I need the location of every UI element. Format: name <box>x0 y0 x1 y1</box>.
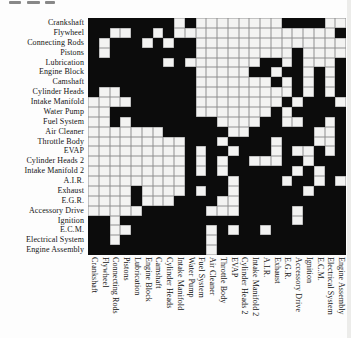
row-label: Flywheel <box>0 28 86 38</box>
matrix-cell <box>325 28 336 38</box>
matrix-cell <box>217 87 228 97</box>
col-label: Intake Manifold <box>174 257 185 337</box>
matrix-cell <box>163 137 174 147</box>
matrix-cell <box>335 77 346 87</box>
matrix-cell <box>292 48 303 58</box>
matrix-cell <box>88 127 99 137</box>
matrix-cell <box>239 225 250 235</box>
matrix-cell <box>142 58 153 68</box>
matrix-cell <box>131 18 142 28</box>
matrix-cell <box>153 67 164 77</box>
matrix-cell <box>292 127 303 137</box>
dsm-figure: CrankshaftFlywheelConnecting RodsPistons… <box>0 0 351 338</box>
matrix-cell <box>314 186 325 196</box>
matrix-cell <box>282 196 293 206</box>
matrix-cell <box>185 176 196 186</box>
matrix-cell <box>303 28 314 38</box>
matrix-cell <box>99 156 110 166</box>
matrix-cell <box>239 156 250 166</box>
matrix-cell <box>185 166 196 176</box>
matrix-cell <box>120 206 131 216</box>
col-label: Ignition <box>303 257 314 337</box>
matrix-cell <box>260 146 271 156</box>
matrix-cell <box>239 67 250 77</box>
matrix-cell <box>153 107 164 117</box>
matrix-cell <box>88 87 99 97</box>
row-label: Crankshaft <box>0 18 86 28</box>
matrix-cell <box>174 216 185 226</box>
matrix-cell <box>303 206 314 216</box>
matrix-cell <box>325 146 336 156</box>
matrix-cell <box>260 206 271 216</box>
matrix-cell <box>239 107 250 117</box>
matrix-cell <box>174 97 185 107</box>
matrix-cell <box>217 166 228 176</box>
matrix-cell <box>88 18 99 28</box>
matrix-cell <box>282 206 293 216</box>
matrix-cell <box>120 127 131 137</box>
matrix-cell <box>335 18 346 28</box>
matrix-cell <box>260 225 271 235</box>
matrix-cell <box>110 117 121 127</box>
matrix-cell <box>174 87 185 97</box>
matrix-cell <box>303 58 314 68</box>
col-label: Exhaust <box>271 257 282 337</box>
col-label: Pistons <box>120 257 131 337</box>
matrix-cell <box>196 206 207 216</box>
matrix-cell <box>99 146 110 156</box>
matrix-cell <box>131 28 142 38</box>
matrix-cell <box>185 58 196 68</box>
matrix-cell <box>185 28 196 38</box>
matrix-cell <box>249 107 260 117</box>
matrix-cell <box>228 146 239 156</box>
matrix-cell <box>249 225 260 235</box>
matrix-cell <box>110 156 121 166</box>
matrix-cell <box>88 235 99 245</box>
matrix-cell <box>217 38 228 48</box>
matrix-cell <box>292 196 303 206</box>
matrix-cell <box>142 206 153 216</box>
matrix-cell <box>185 137 196 147</box>
matrix-cell <box>120 216 131 226</box>
scan-edge-band <box>347 0 351 338</box>
matrix-cell <box>142 196 153 206</box>
col-label: Fuel System <box>196 257 207 337</box>
matrix-cell <box>303 186 314 196</box>
matrix-cell <box>88 196 99 206</box>
matrix-cell <box>217 48 228 58</box>
matrix-cell <box>174 38 185 48</box>
matrix-cell <box>174 156 185 166</box>
row-label: E.G.R. <box>0 196 86 206</box>
matrix-cell <box>314 58 325 68</box>
matrix-cell <box>335 196 346 206</box>
matrix-cell <box>185 77 196 87</box>
matrix-cell <box>174 137 185 147</box>
matrix-cell <box>99 216 110 226</box>
row-label-column: CrankshaftFlywheelConnecting RodsPistons… <box>0 18 86 255</box>
matrix-cell <box>228 107 239 117</box>
matrix-cell <box>120 225 131 235</box>
matrix-cell <box>325 235 336 245</box>
matrix-cell <box>217 235 228 245</box>
matrix-cell <box>335 156 346 166</box>
row-label: Cylinder Heads <box>0 87 86 97</box>
row-label: Intake Manifold <box>0 97 86 107</box>
matrix-cell <box>153 206 164 216</box>
matrix-cell <box>271 137 282 147</box>
matrix-cell <box>88 245 99 255</box>
matrix-cell <box>88 28 99 38</box>
matrix-cell <box>153 48 164 58</box>
matrix-cell <box>217 146 228 156</box>
matrix-cell <box>206 156 217 166</box>
matrix-cell <box>153 137 164 147</box>
matrix-cell <box>174 77 185 87</box>
matrix-cell <box>292 176 303 186</box>
col-label: Throttle Body <box>217 257 228 337</box>
matrix-cell <box>88 156 99 166</box>
matrix-cell <box>99 166 110 176</box>
matrix-cell <box>228 48 239 58</box>
matrix-cell <box>153 235 164 245</box>
matrix-cell <box>174 67 185 77</box>
matrix-cell <box>185 146 196 156</box>
matrix-cell <box>163 48 174 58</box>
